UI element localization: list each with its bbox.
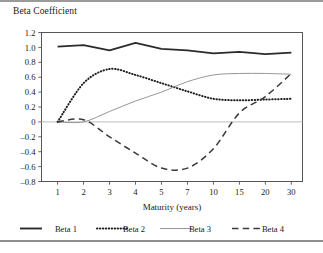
x-axis-title-label: Maturity (years) [143, 202, 202, 212]
series-line-beta-3 [58, 73, 292, 122]
x-axis-tick-label: 5 [159, 187, 163, 197]
x-axis-tick-label: 4 [133, 187, 138, 197]
y-axis-tick-label: 0.4 [25, 87, 36, 97]
y-axis-tick-label: –0.4 [19, 147, 36, 157]
y-axis-tick-labels: 1.21.00.80.60.40.20–0.2–0.4–0.6–0.8 [19, 28, 36, 187]
legend-label-beta-1: Beta 1 [55, 224, 77, 234]
y-axis-tick-label: 0.2 [25, 102, 36, 112]
series-line-beta-2 [58, 69, 292, 122]
bottom-divider-rule [0, 240, 323, 242]
axes-group [38, 33, 302, 185]
x-axis-tick-labels: 12345710152030 [55, 187, 295, 197]
x-axis-tick-label: 2 [81, 187, 85, 197]
figure-container: Beta Coefficient 1.21.00.80.60.40.20–0.2… [0, 0, 323, 253]
y-axis-tick-label: 1.0 [25, 43, 36, 53]
x-axis-tick-label: 3 [107, 187, 111, 197]
legend-label-beta-4: Beta 4 [262, 224, 285, 234]
x-axis-tick-label: 10 [209, 187, 218, 197]
chart-legend: Beta 1Beta 2Beta 3Beta 4 [20, 224, 285, 234]
x-axis-title: Maturity (years) [143, 202, 202, 212]
chart-plot-area: 1.21.00.80.60.40.20–0.2–0.4–0.6–0.8 1234… [0, 0, 323, 253]
x-axis-tick-label: 7 [185, 187, 190, 197]
series-line-beta-1 [58, 43, 292, 54]
x-axis-tick-label: 15 [235, 187, 244, 197]
y-axis-tick-label: –0.8 [19, 177, 35, 187]
y-axis-tick-label: –0.6 [19, 162, 36, 172]
y-axis-tick-label: 1.2 [25, 28, 36, 38]
x-axis-tick-label: 1 [55, 187, 59, 197]
y-axis-tick-label: 0 [31, 117, 35, 127]
x-axis-tick-label: 20 [261, 187, 270, 197]
legend-label-beta-2: Beta 2 [123, 224, 145, 234]
y-axis-tick-label: 0.6 [25, 72, 36, 82]
y-axis-tick-label: 0.8 [25, 57, 36, 67]
legend-label-beta-3: Beta 3 [189, 224, 211, 234]
y-axis-tick-label: –0.2 [19, 132, 35, 142]
series-group [58, 43, 292, 170]
x-axis-tick-label: 30 [287, 187, 296, 197]
line-chart-svg: 1.21.00.80.60.40.20–0.2–0.4–0.6–0.8 1234… [0, 0, 323, 253]
